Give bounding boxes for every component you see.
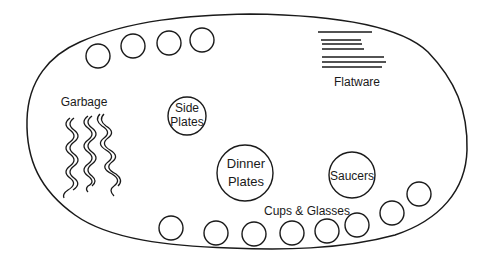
cup-circle	[159, 216, 183, 240]
top-circle	[86, 44, 110, 68]
dinner-plates-label-2: Plates	[228, 174, 265, 189]
table-layout-diagram: Flatware Garbage Side Plates Dinner Plat…	[0, 0, 489, 263]
top-circle	[121, 34, 145, 58]
cup-circle	[315, 219, 339, 243]
cup-circle	[407, 182, 431, 206]
top-circle	[157, 31, 181, 55]
side-plates-label-2: Plates	[170, 115, 203, 129]
saucers-label: Saucers	[330, 169, 374, 183]
cup-circle	[380, 201, 404, 225]
flatware-icon	[318, 32, 386, 67]
top-circles	[86, 28, 214, 68]
table-outline	[27, 14, 467, 249]
dinner-plates-circle	[217, 145, 273, 201]
cup-circle	[242, 222, 266, 246]
cup-circle	[280, 221, 304, 245]
dinner-plates-label: Dinner	[227, 156, 266, 171]
garbage-label: Garbage	[61, 95, 108, 109]
cup-circle	[204, 221, 228, 245]
top-circle	[190, 28, 214, 52]
cup-circle	[345, 213, 369, 237]
cups-glasses-label: Cups & Glasses	[264, 204, 350, 218]
side-plates-label: Side	[175, 101, 199, 115]
flatware-label: Flatware	[334, 75, 380, 89]
garbage-icon	[64, 114, 121, 198]
